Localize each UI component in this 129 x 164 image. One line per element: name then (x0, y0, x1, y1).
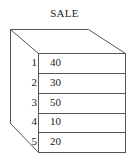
row-value-2: 30 (50, 76, 61, 88)
row-value-3: 50 (50, 96, 61, 108)
row-index-1: 1 (28, 56, 37, 68)
row-index-4: 4 (28, 115, 37, 127)
box-outline (0, 0, 129, 164)
row-index-2: 2 (28, 76, 37, 88)
row-value-5: 20 (50, 135, 61, 147)
row-value-4: 10 (50, 115, 61, 127)
row-value-1: 40 (50, 56, 61, 68)
row-index-5: 5 (28, 135, 37, 147)
row-index-3: 3 (28, 96, 37, 108)
